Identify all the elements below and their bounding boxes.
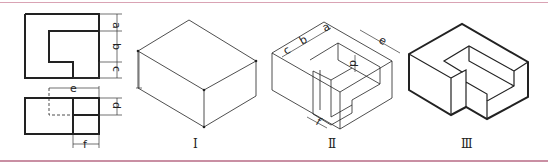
step-1-label: Ⅰ xyxy=(193,137,198,151)
dim-e-label: e xyxy=(70,82,77,95)
step-3-label: Ⅲ xyxy=(461,137,473,151)
dim-f-label: f xyxy=(83,138,88,151)
step-2-dim-f: f xyxy=(314,115,325,129)
step-3-final-solid: Ⅲ xyxy=(409,24,528,151)
dim-c-label: c xyxy=(110,66,123,72)
step-2-dim-d: d xyxy=(347,60,360,67)
step-2-construction: c b a e d f Ⅱ xyxy=(272,20,400,151)
orthographic-views: a b c e d f xyxy=(25,14,123,151)
step-1-bounding-box: Ⅰ xyxy=(137,20,258,151)
dim-a-label: a xyxy=(110,22,123,29)
top-view: a b c xyxy=(25,14,123,78)
projection-arrow xyxy=(136,52,142,88)
step-2-dim-a: a xyxy=(320,20,332,35)
step-2-dim-c: c xyxy=(281,43,293,57)
step-2-dim-b: b xyxy=(297,33,310,48)
technical-drawing: a b c e d f xyxy=(0,0,548,163)
step-2-label: Ⅱ xyxy=(328,137,336,151)
dim-b-label: b xyxy=(110,43,123,50)
dim-d-label: d xyxy=(110,102,123,109)
front-view: e d f xyxy=(25,82,123,151)
